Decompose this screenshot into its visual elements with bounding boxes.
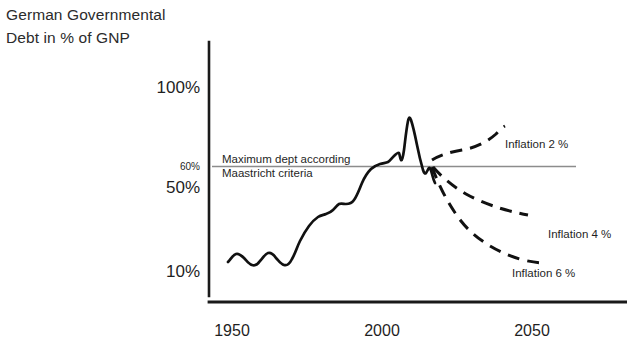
x-tick-2050: 2050: [492, 322, 572, 340]
maastricht-annotation-line-2: Maastricht criteria: [222, 166, 350, 180]
maastricht-annotation-line-1: Maximum dept according: [222, 152, 350, 166]
historical-debt-line: [228, 118, 435, 266]
forecast-line-inflation-2: [432, 126, 505, 160]
y-tick-60: 60%: [140, 161, 200, 172]
x-tick-2000: 2000: [342, 322, 422, 340]
y-tick-50: 50%: [130, 178, 200, 198]
y-tick-100: 100%: [130, 78, 200, 98]
series-label-inflation-2: Inflation 2 %: [505, 138, 568, 150]
x-tick-1950: 1950: [192, 322, 272, 340]
series-label-inflation-4: Inflation 4 %: [548, 228, 611, 240]
maastricht-annotation: Maximum dept according Maastricht criter…: [222, 152, 350, 180]
y-tick-10: 10%: [130, 262, 200, 282]
forecast-line-inflation-4: [433, 167, 528, 215]
series-label-inflation-6: Inflation 6 %: [512, 267, 575, 279]
chart-container: German Governmental Debt in % of GNP 100…: [0, 0, 627, 349]
